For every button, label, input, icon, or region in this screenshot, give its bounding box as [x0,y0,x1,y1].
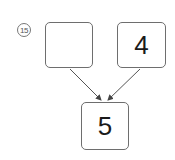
arrow-left [70,69,101,100]
result-box: 5 [81,102,129,150]
arrow-right [108,69,140,100]
